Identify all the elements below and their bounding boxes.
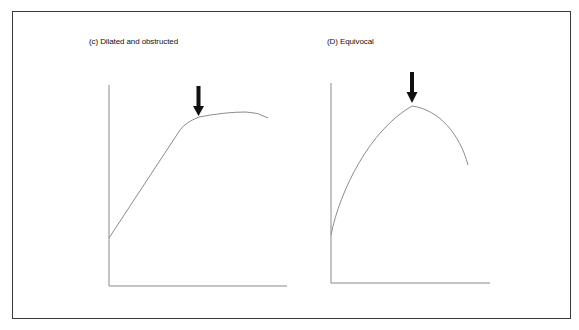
panel-c-arrow-down-icon (193, 86, 204, 116)
panel-d-axes (331, 83, 490, 283)
panel-c-axes (109, 85, 287, 286)
panel-c-curve (109, 112, 268, 238)
panel-d-curve (331, 106, 468, 235)
plots-canvas (0, 0, 579, 330)
panel-d-arrow-down-icon (407, 72, 418, 103)
